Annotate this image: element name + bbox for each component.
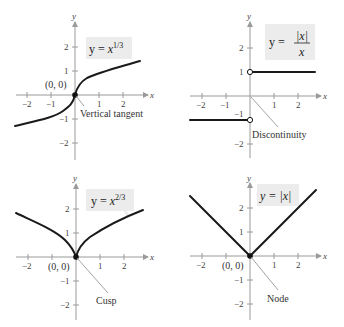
equation-label: y = |x| (259, 189, 291, 203)
point-label: (0, 0) (45, 79, 67, 91)
point-label: (0, 0) (48, 261, 70, 273)
svg-text:2: 2 (65, 204, 70, 214)
panel-abs: y = |x| x y −2 1 2 2 1 −1 −2 (0, 0) Node (190, 173, 327, 320)
svg-text:−1: −1 (59, 114, 69, 124)
panel-sign: y = |x| x x y −2 −1 1 2 2 1 −1 −2 Discon… (190, 11, 327, 158)
curve (16, 210, 143, 257)
svg-text:1: 1 (65, 228, 70, 238)
svg-text:2: 2 (239, 203, 244, 213)
svg-text:−2: −2 (22, 99, 32, 109)
x-axis-label: x (149, 90, 154, 100)
svg-text:1: 1 (272, 260, 277, 270)
svg-text:−2: −2 (196, 260, 206, 270)
annotation-label: Vertical tangent (80, 108, 143, 119)
x-axis-label: x (322, 91, 327, 101)
svg-text:−2: −2 (234, 299, 244, 309)
panel-two-thirds: y = x2/3 x y −2 1 2 2 1 −1 −2 (0, 0) Cus… (16, 173, 154, 320)
equation-label: y = (269, 35, 285, 49)
annotation-label: Cusp (96, 295, 117, 306)
x-axis-label: x (322, 251, 327, 261)
point-label: (0, 0) (222, 260, 244, 272)
svg-text:−2: −2 (22, 261, 32, 271)
svg-text:2: 2 (122, 261, 127, 271)
svg-text:1: 1 (98, 261, 103, 271)
equation-numerator: |x| (296, 29, 308, 43)
annotation-label: Discontinuity (252, 129, 306, 140)
x-axis-label: x (149, 252, 154, 262)
figure: y = x1/3 x y −2 −1 1 2 2 1 −1 −2 (0, 0) … (0, 0, 344, 327)
svg-text:−2: −2 (196, 100, 206, 110)
svg-text:2: 2 (296, 260, 301, 270)
svg-text:1: 1 (239, 67, 244, 77)
equation-denominator: x (298, 45, 305, 59)
svg-text:2: 2 (239, 43, 244, 53)
y-axis-label: y (246, 11, 251, 21)
svg-text:1: 1 (239, 227, 244, 237)
svg-text:2: 2 (64, 42, 69, 52)
panel-cube-root: y = x1/3 x y −2 −1 1 2 2 1 −1 −2 (0, 0) … (15, 11, 154, 160)
svg-text:−1: −1 (234, 275, 244, 285)
svg-text:−2: −2 (59, 138, 69, 148)
svg-text:−1: −1 (220, 100, 230, 110)
svg-text:−1: −1 (46, 99, 56, 109)
open-point-bottom (247, 117, 252, 122)
svg-text:−2: −2 (234, 139, 244, 149)
svg-text:1: 1 (272, 100, 277, 110)
svg-text:−2: −2 (60, 300, 70, 310)
y-axis-label: y (246, 173, 251, 183)
open-point-top (247, 69, 252, 74)
y-axis-label: y (72, 173, 77, 183)
leader-line (76, 96, 84, 106)
svg-text:−1: −1 (60, 276, 70, 286)
svg-text:2: 2 (296, 100, 301, 110)
svg-text:1: 1 (64, 66, 69, 76)
y-axis-label: y (71, 11, 76, 21)
leader-line (77, 258, 108, 293)
annotation-label: Node (267, 293, 289, 304)
svg-text:−1: −1 (234, 109, 244, 119)
